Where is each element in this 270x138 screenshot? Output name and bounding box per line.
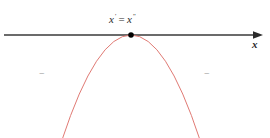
vertex-label-right-prime: "	[133, 12, 136, 20]
parabola-figure: x'=x" x − −	[0, 0, 270, 138]
parabola-curve	[62, 35, 200, 138]
x-axis-label: x	[252, 39, 258, 50]
vertex-dot	[128, 32, 134, 38]
vertex-label: x'=x"	[109, 14, 136, 25]
vertex-label-equals: =	[116, 13, 127, 25]
minus-sign-left: −	[39, 69, 45, 79]
minus-sign-right: −	[204, 69, 210, 79]
